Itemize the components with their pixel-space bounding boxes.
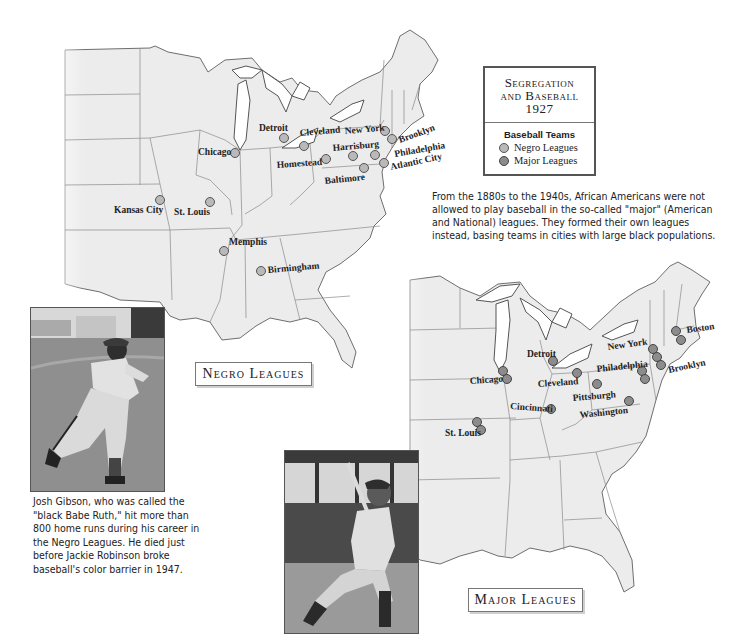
- major-leagues-map: Boston New York Brooklyn Detroit Philade…: [380, 260, 743, 638]
- svg-text:Detroit: Detroit: [527, 349, 557, 359]
- svg-text:Chicago: Chicago: [198, 147, 232, 157]
- babe-ruth-photo: [284, 450, 419, 634]
- legend-item-negro: Negro Leagues: [499, 142, 594, 153]
- josh-gibson-caption: Josh Gibson, who was called the "black B…: [33, 495, 203, 576]
- svg-text:St. Louis: St. Louis: [174, 207, 210, 217]
- legend-item-major: Major Leagues: [499, 155, 594, 166]
- divider: [485, 122, 594, 123]
- svg-text:Memphis: Memphis: [229, 237, 267, 247]
- legend-heading: Baseball Teams: [485, 129, 594, 140]
- city-label-detroit: Detroit: [259, 123, 289, 133]
- svg-text:Kansas City: Kansas City: [114, 205, 164, 215]
- baseball-icon: [499, 143, 509, 153]
- josh-gibson-photo: [30, 307, 165, 492]
- page-title: Segregation and Baseball 1927: [485, 68, 594, 115]
- title-legend-box: Segregation and Baseball 1927 Baseball T…: [483, 66, 596, 176]
- batter-figure-icon: [285, 451, 418, 633]
- major-leagues-map-label: Major Leagues: [468, 588, 583, 612]
- intro-text: From the 1880s to the 1940s, African Ame…: [432, 190, 722, 242]
- svg-text:St. Louis: St. Louis: [445, 428, 481, 438]
- baseball-icon: [499, 156, 509, 166]
- pitcher-figure-icon: [31, 308, 164, 491]
- negro-leagues-map-label: Negro Leagues: [195, 362, 312, 386]
